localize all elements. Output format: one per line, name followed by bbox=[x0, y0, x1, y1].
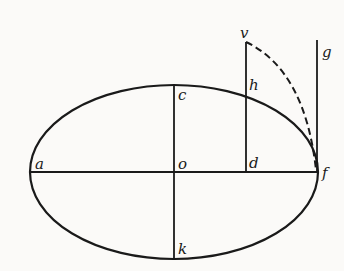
label-o: o bbox=[178, 155, 187, 173]
label-v: v bbox=[240, 24, 249, 42]
label-c: c bbox=[178, 86, 187, 104]
label-g: g bbox=[322, 43, 332, 61]
label-f: f bbox=[321, 164, 330, 182]
label-d: d bbox=[249, 154, 259, 172]
ellipse-diagram: a o d f c h k v g bbox=[0, 0, 344, 271]
label-k: k bbox=[178, 240, 187, 258]
label-h: h bbox=[249, 76, 259, 94]
label-a: a bbox=[35, 155, 44, 173]
dashed-arc-vf bbox=[246, 42, 316, 170]
